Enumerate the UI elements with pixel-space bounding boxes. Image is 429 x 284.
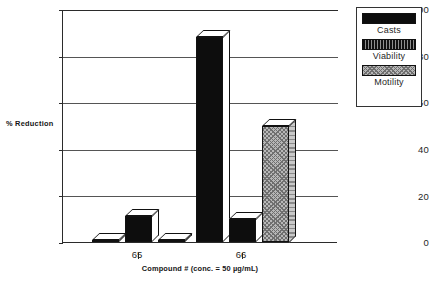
- plot-area: [62, 10, 337, 243]
- legend-swatch-motility: [362, 65, 416, 76]
- bar-motility-65: [158, 240, 185, 242]
- bar-side-face: [223, 30, 230, 242]
- x-axis-title: Compound # (conc. = 50 µg/mL): [0, 264, 400, 273]
- bar-viability-66: [229, 219, 256, 242]
- y-axis-tick-label: 40: [373, 144, 429, 155]
- legend-label-casts: Casts: [362, 25, 416, 35]
- bar-side-face: [152, 209, 159, 242]
- bar-casts-66: [196, 37, 223, 242]
- bar-side-face: [289, 119, 296, 243]
- y-tick-mark: [59, 243, 63, 244]
- bar-front-face: [229, 219, 256, 242]
- x-axis-tick-label-65: 65: [117, 249, 157, 260]
- x-axis-tick-label-66: 66: [221, 249, 261, 260]
- bar-casts-65: [92, 240, 119, 242]
- bar-chart-figure: 100 80 60 40 20 0 % Reduction Compound #…: [0, 0, 429, 284]
- legend-label-motility: Motility: [362, 77, 416, 87]
- legend-swatch-viability: [362, 39, 416, 50]
- bar-front-face: [92, 240, 119, 242]
- bar-front-face: [158, 240, 185, 242]
- y-tick-mark: [59, 196, 63, 197]
- y-axis-tick-label: 0: [373, 237, 429, 248]
- y-tick-mark: [59, 150, 63, 151]
- legend-item-viability: Viability: [362, 39, 416, 61]
- y-tick-mark: [59, 10, 63, 11]
- bar-front-face: [125, 216, 152, 242]
- legend-item-motility: Motility: [362, 65, 416, 87]
- y-axis-title: % Reduction: [6, 119, 54, 128]
- gridline-100: [63, 10, 338, 11]
- y-tick-mark: [59, 103, 63, 104]
- legend-label-viability: Viability: [362, 51, 416, 61]
- y-axis-tick-label: 20: [373, 191, 429, 202]
- y-tick-mark: [59, 57, 63, 58]
- bar-front-face: [262, 126, 289, 243]
- chart-legend: Casts Viability Motility: [356, 7, 422, 107]
- legend-item-casts: Casts: [362, 13, 416, 35]
- bar-motility-66: [262, 126, 289, 243]
- bar-front-face: [196, 37, 223, 242]
- legend-swatch-casts: [362, 13, 416, 24]
- bar-viability-65: [125, 216, 152, 242]
